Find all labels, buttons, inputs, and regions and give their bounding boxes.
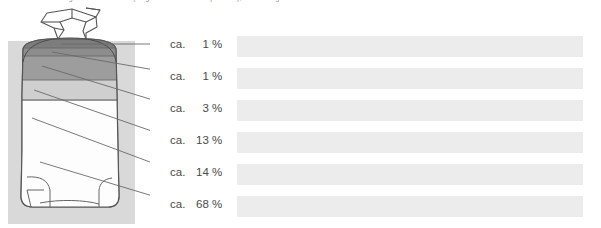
figure-sack-composition: Zusammensetzung des Sackinhalts (Angaben… bbox=[0, 0, 601, 228]
label-prefix-2: ca. bbox=[170, 70, 190, 82]
label-prefix-4: ca. bbox=[170, 134, 190, 146]
redacted-caption-bar bbox=[237, 196, 583, 217]
label-unit-6: % bbox=[209, 198, 222, 210]
label-layer-4: ca.13% bbox=[170, 134, 222, 146]
label-value-3: 3 bbox=[190, 102, 209, 114]
band-layer-4 bbox=[18, 80, 122, 99]
label-prefix-1: ca. bbox=[170, 38, 190, 50]
label-layer-2: ca.1% bbox=[170, 70, 222, 82]
sack-illustration bbox=[0, 0, 150, 228]
label-value-1: 1 bbox=[190, 38, 209, 50]
band-layer-6 bbox=[18, 101, 122, 211]
redacted-caption-bar bbox=[237, 36, 583, 57]
band-layer-1 bbox=[18, 39, 122, 48]
label-value-6: 68 bbox=[190, 198, 209, 210]
redacted-caption-bar bbox=[237, 164, 583, 185]
bag-layer-bands bbox=[18, 39, 122, 211]
band-layer-3 bbox=[18, 56, 122, 80]
label-layer-6: ca.68% bbox=[170, 198, 222, 210]
label-layer-3: ca.3% bbox=[170, 102, 222, 114]
label-layer-1: ca.1% bbox=[170, 38, 222, 50]
label-prefix-6: ca. bbox=[170, 198, 190, 210]
label-prefix-5: ca. bbox=[170, 166, 190, 178]
redacted-caption-bar bbox=[237, 100, 583, 121]
label-value-2: 1 bbox=[190, 70, 209, 82]
label-value-4: 13 bbox=[190, 134, 209, 146]
label-unit-5: % bbox=[209, 166, 222, 178]
label-layer-5: ca.14% bbox=[170, 166, 222, 178]
label-unit-4: % bbox=[209, 134, 222, 146]
label-prefix-3: ca. bbox=[170, 102, 190, 114]
label-unit-1: % bbox=[209, 38, 222, 50]
label-unit-3: % bbox=[209, 102, 222, 114]
label-unit-2: % bbox=[209, 70, 222, 82]
redacted-caption-bar bbox=[237, 132, 583, 153]
label-value-5: 14 bbox=[190, 166, 209, 178]
bag-top-closure bbox=[41, 8, 100, 39]
redacted-caption-bar bbox=[237, 68, 583, 89]
